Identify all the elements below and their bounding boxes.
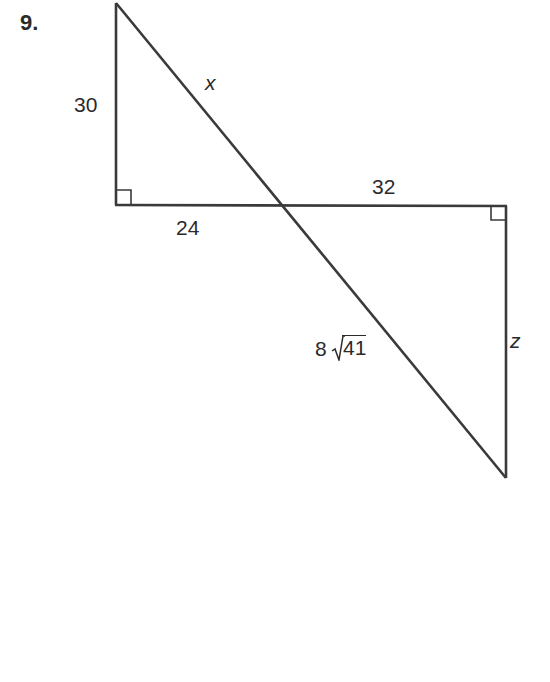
radical-radicand: 41 xyxy=(342,335,366,358)
horizontal-base-line xyxy=(115,205,507,206)
label-top-hypotenuse: x xyxy=(205,72,216,93)
right-angle-marker-left xyxy=(116,190,131,205)
problem-number: 9. xyxy=(20,12,38,34)
transversal-hypotenuse xyxy=(116,3,506,478)
label-right-leg: z xyxy=(510,330,521,351)
label-bottom-hypotenuse: 8 41 xyxy=(315,338,385,364)
geometry-diagram: 9. 30 x 24 32 z 8 41 xyxy=(0,0,550,682)
label-left-base: 24 xyxy=(176,217,199,238)
label-right-base: 32 xyxy=(372,176,395,197)
right-angle-marker-right xyxy=(491,206,506,220)
label-left-leg: 30 xyxy=(74,94,97,115)
radical-coefficient: 8 xyxy=(315,338,327,359)
